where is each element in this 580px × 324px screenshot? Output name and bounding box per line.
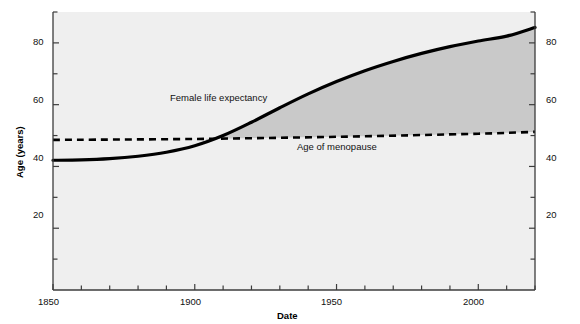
y-tick-label-left-60: 60	[33, 94, 44, 105]
x-tick-label-1950: 1950	[321, 296, 342, 307]
x-tick-label-1850: 1850	[38, 296, 59, 307]
annotation-female-life-expectancy: Female life expectancy	[170, 92, 267, 103]
y-tick-label-right-20: 20	[546, 209, 557, 220]
x-tick-label-1900: 1900	[180, 296, 201, 307]
y-tick-label-right-60: 60	[546, 94, 557, 105]
y-tick-label-left-20: 20	[33, 209, 44, 220]
annotation-age-of-menopause: Age of menopause	[297, 141, 377, 152]
y-tick-label-left-80: 80	[33, 36, 44, 47]
chart-figure: 80 60 40 20 80 60 40 20 1850 1900 1950 2…	[0, 0, 580, 324]
y-axis-title: Age (years)	[14, 126, 25, 178]
x-tick-label-2000: 2000	[463, 296, 484, 307]
x-axis-title: Date	[277, 310, 298, 321]
chart-plot-area	[0, 0, 580, 324]
y-tick-label-left-40: 40	[33, 152, 44, 163]
y-tick-label-right-80: 80	[546, 36, 557, 47]
y-tick-label-right-40: 40	[546, 152, 557, 163]
